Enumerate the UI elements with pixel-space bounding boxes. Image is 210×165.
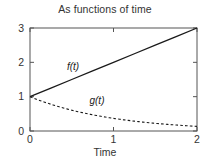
y-tick-label: 2	[6, 57, 24, 67]
x-tick-label: 0	[20, 134, 40, 144]
y-tick-label: 1	[6, 91, 24, 101]
chart-figure: As functions of time 0123 012 f(t)g(t) T…	[0, 0, 210, 165]
x-tick-label: 2	[187, 134, 207, 144]
plot-frame	[30, 28, 197, 131]
y-tick-label: 3	[6, 23, 24, 33]
series-line-1	[30, 28, 197, 97]
tick-marks	[30, 28, 197, 131]
series-annotation-2: g(t)	[89, 95, 104, 106]
series-annotation-1: f(t)	[67, 61, 79, 72]
data-series	[30, 28, 197, 126]
series-line-2	[30, 97, 197, 127]
x-tick-label: 1	[104, 134, 124, 144]
axes-frame	[30, 28, 197, 131]
x-axis-label: Time	[0, 146, 210, 158]
